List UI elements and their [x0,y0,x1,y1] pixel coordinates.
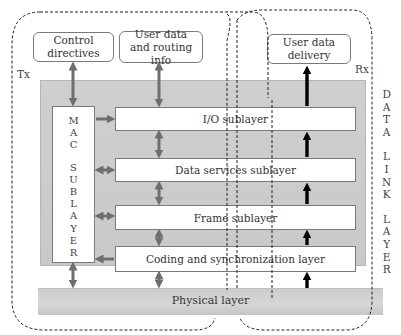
diagram-overlay [0,0,401,335]
